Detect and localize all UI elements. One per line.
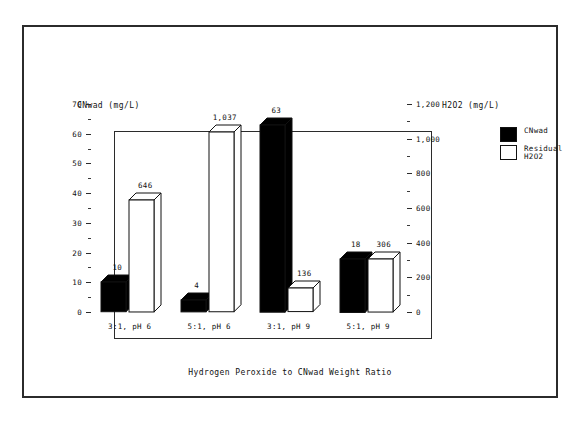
right-axis-tick-label: 1,000 bbox=[416, 135, 452, 144]
bar-3d-faces bbox=[288, 281, 322, 314]
x-axis-category-label: 3:1, pH 9 bbox=[243, 322, 335, 331]
left-axis-tick-label: 0 bbox=[54, 308, 82, 317]
left-axis-tick bbox=[86, 134, 91, 135]
left-axis-minor-tick bbox=[88, 119, 91, 120]
right-axis-tick-label: 0 bbox=[416, 308, 452, 317]
left-axis-tick-label: 60 bbox=[54, 130, 82, 139]
right-axis-tick bbox=[407, 104, 412, 105]
left-axis-minor-tick bbox=[88, 208, 91, 209]
legend-item[interactable]: Residual H2O2 bbox=[500, 145, 563, 162]
bar-residual-h2o2-3 bbox=[368, 259, 393, 312]
right-axis-minor-tick bbox=[407, 191, 410, 192]
figure-border: CNwad (mg/L) H2O2 (mg/L) 010203040506070… bbox=[22, 25, 558, 398]
bar-cnwad-1 bbox=[181, 300, 206, 312]
x-axis-category-label: 5:1, pH 6 bbox=[164, 322, 256, 331]
right-axis-tick bbox=[407, 312, 412, 313]
x-axis-title: Hydrogen Peroxide to CNwad Weight Ratio bbox=[24, 368, 556, 377]
bar-residual-h2o2-2 bbox=[288, 288, 313, 312]
left-axis-tick bbox=[86, 104, 91, 105]
right-axis-tick-label: 600 bbox=[416, 204, 452, 213]
bar-value-label: 136 bbox=[280, 269, 328, 278]
right-axis-tick bbox=[407, 139, 412, 140]
right-axis-minor-tick bbox=[407, 225, 410, 226]
left-axis-tick-label: 30 bbox=[54, 219, 82, 228]
bar-3d-faces bbox=[129, 193, 163, 314]
right-axis-tick-label: 800 bbox=[416, 169, 452, 178]
left-axis-tick-label: 70 bbox=[54, 100, 82, 109]
left-axis-tick-label: 10 bbox=[54, 278, 82, 287]
left-axis-minor-tick bbox=[88, 178, 91, 179]
x-axis-category-label: 3:1, pH 6 bbox=[84, 322, 176, 331]
left-axis-tick bbox=[86, 253, 91, 254]
left-axis-tick bbox=[86, 193, 91, 194]
left-axis-tick-label: 50 bbox=[54, 159, 82, 168]
x-axis-category-label: 5:1, pH 9 bbox=[323, 322, 415, 331]
left-axis-tick-label: 20 bbox=[54, 249, 82, 258]
legend-label: CNwad bbox=[524, 127, 563, 136]
left-axis-tick bbox=[86, 223, 91, 224]
left-axis-tick-label: 40 bbox=[54, 189, 82, 198]
bar-cnwad-0 bbox=[101, 282, 126, 312]
right-axis-tick-label: 200 bbox=[416, 273, 452, 282]
left-axis-title: CNwad (mg/L) bbox=[77, 101, 140, 110]
legend: CNwadResidual H2O2 bbox=[500, 127, 563, 171]
right-axis-minor-tick bbox=[407, 121, 410, 122]
legend-swatch-dark bbox=[500, 127, 517, 142]
bar-cnwad-2 bbox=[260, 125, 285, 312]
legend-item[interactable]: CNwad bbox=[500, 127, 563, 136]
right-axis-tick bbox=[407, 277, 412, 278]
bar-value-label: 306 bbox=[360, 240, 408, 249]
right-axis-tick-label: 400 bbox=[416, 239, 452, 248]
bar-residual-h2o2-1 bbox=[209, 132, 234, 312]
bar-value-label: 63 bbox=[252, 106, 300, 115]
left-axis-minor-tick bbox=[88, 267, 91, 268]
right-axis-minor-tick bbox=[407, 295, 410, 296]
left-axis-tick bbox=[86, 282, 91, 283]
bar-residual-h2o2-0 bbox=[129, 200, 154, 312]
left-axis-tick bbox=[86, 163, 91, 164]
right-axis-minor-tick bbox=[407, 260, 410, 261]
right-axis-tick-label: 1,200 bbox=[416, 100, 452, 109]
right-axis-tick bbox=[407, 208, 412, 209]
legend-label: Residual H2O2 bbox=[524, 145, 563, 162]
right-axis-tick bbox=[407, 243, 412, 244]
bar-value-label: 1,037 bbox=[201, 113, 249, 122]
left-axis-minor-tick bbox=[88, 149, 91, 150]
bar-3d-faces bbox=[368, 252, 402, 314]
left-axis-tick bbox=[86, 312, 91, 313]
left-axis-minor-tick bbox=[88, 297, 91, 298]
right-axis-tick bbox=[407, 173, 412, 174]
bar-cnwad-3 bbox=[340, 259, 365, 312]
left-axis-minor-tick bbox=[88, 238, 91, 239]
legend-swatch-light bbox=[500, 145, 517, 160]
bar-3d-faces bbox=[209, 125, 243, 314]
bar-value-label: 646 bbox=[121, 181, 169, 190]
right-axis-minor-tick bbox=[407, 156, 410, 157]
